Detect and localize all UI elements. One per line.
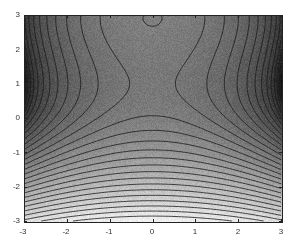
contour-figure: 3 2 1 0 -1 -2 -3 -3 -2 -1 0 1 2 3 [0, 0, 296, 245]
tick-mark [279, 187, 282, 188]
tick-mark [24, 221, 27, 222]
tick-mark [153, 15, 154, 18]
tick-mark [279, 84, 282, 85]
tick-mark [24, 152, 27, 153]
x-tick-label: 0 [144, 228, 160, 236]
contour-plot-area [24, 15, 282, 222]
y-tick-label: -1 [6, 149, 20, 157]
tick-mark [279, 221, 282, 222]
y-tick-label: 1 [6, 80, 20, 88]
tick-mark [195, 15, 196, 18]
tick-mark [24, 15, 27, 16]
y-tick-label: 2 [6, 46, 20, 54]
x-tick-label: 3 [273, 228, 289, 236]
tick-mark [195, 219, 196, 222]
tick-mark [110, 15, 111, 18]
tick-mark [24, 118, 27, 119]
x-tick-label: -1 [101, 228, 117, 236]
tick-mark [24, 84, 27, 85]
x-tick-label: -2 [58, 228, 74, 236]
tick-mark [238, 219, 239, 222]
tick-mark [24, 49, 27, 50]
tick-mark [67, 15, 68, 18]
tick-mark [238, 15, 239, 18]
y-tick-label: 0 [6, 114, 20, 122]
tick-mark [153, 219, 154, 222]
tick-mark [110, 219, 111, 222]
x-tick-label: 2 [230, 228, 246, 236]
tick-mark [279, 49, 282, 50]
tick-mark [67, 219, 68, 222]
y-tick-label: -2 [6, 183, 20, 191]
x-tick-label: 1 [187, 228, 203, 236]
tick-mark [279, 15, 282, 16]
y-tick-label: 3 [6, 11, 20, 19]
x-tick-label: -3 [15, 228, 31, 236]
y-tick-label: -3 [6, 217, 20, 225]
tick-mark [279, 152, 282, 153]
tick-mark [279, 118, 282, 119]
tick-mark [24, 187, 27, 188]
